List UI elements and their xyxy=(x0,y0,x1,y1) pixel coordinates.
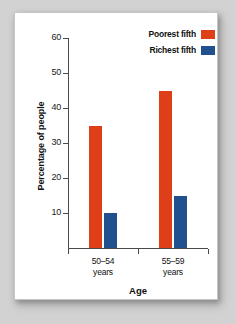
x-category-label: 50–54years xyxy=(74,256,132,278)
x-tick-mark xyxy=(68,249,69,254)
x-category-label-line: years xyxy=(74,267,132,278)
x-category-label-line: years xyxy=(144,267,202,278)
x-tick-mark xyxy=(138,249,139,254)
page-background: 102030405060 Percentage of people Age 50… xyxy=(0,0,236,324)
y-axis-line xyxy=(68,38,69,249)
legend-swatch-richest xyxy=(201,46,215,55)
bar-chart: 102030405060 Percentage of people Age 50… xyxy=(15,13,219,301)
x-category-label: 55–59years xyxy=(144,256,202,278)
y-tick-mark xyxy=(63,38,68,39)
bar-poorest-fifth-1[interactable] xyxy=(89,126,102,249)
bar-poorest-fifth-2[interactable] xyxy=(159,91,172,249)
y-tick-mark xyxy=(63,213,68,214)
y-tick-label: 60 xyxy=(35,33,61,42)
y-axis-title: Percentage of people xyxy=(36,71,46,221)
legend-item-poorest[interactable]: Poorest fifth xyxy=(123,27,215,41)
bar-richest-fifth-1[interactable] xyxy=(104,213,117,248)
x-axis-title: Age xyxy=(68,285,208,296)
chart-legend: Poorest fifth Richest fifth xyxy=(123,27,215,59)
y-tick-mark xyxy=(63,143,68,144)
x-tick-mark xyxy=(208,249,209,254)
chart-card: 102030405060 Percentage of people Age 50… xyxy=(14,12,218,300)
y-tick-mark xyxy=(63,178,68,179)
bar-richest-fifth-2[interactable] xyxy=(174,196,187,249)
legend-item-richest[interactable]: Richest fifth xyxy=(123,43,215,57)
x-category-label-line: 50–54 xyxy=(92,256,115,266)
legend-swatch-poorest xyxy=(201,30,215,39)
x-category-label-line: 55–59 xyxy=(162,256,185,266)
legend-label-poorest: Poorest fifth xyxy=(149,29,196,39)
y-tick-mark xyxy=(63,108,68,109)
y-tick-mark xyxy=(63,73,68,74)
legend-label-richest: Richest fifth xyxy=(149,45,196,55)
